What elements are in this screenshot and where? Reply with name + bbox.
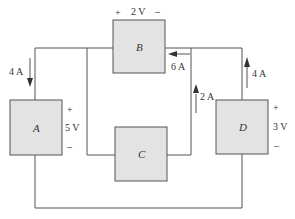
current-arrow-c	[193, 84, 199, 113]
arrow-down-icon	[27, 78, 33, 87]
wire-top-left	[35, 48, 113, 100]
element-d-voltage: 3 V	[273, 121, 288, 132]
wire-inner-left	[87, 48, 115, 155]
element-b-voltage: 2 V	[131, 6, 146, 17]
element-b-plus: +	[115, 7, 121, 18]
element-a-minus: –	[66, 141, 73, 152]
element-a-voltage: 5 V	[65, 122, 80, 133]
current-a-label: 4 A	[9, 66, 24, 77]
element-a-plus: +	[67, 104, 73, 115]
circuit-diagram: A B C D + 5 V – + 2 V – + 3 V – 4 A 6 A …	[0, 0, 295, 219]
current-d-label: 4 A	[252, 68, 267, 79]
current-c-label: 2 A	[200, 91, 215, 102]
current-b-label: 6 A	[171, 61, 186, 72]
element-a-label: A	[32, 122, 40, 134]
arrow-left-icon	[168, 51, 177, 57]
element-b-minus: –	[154, 6, 161, 17]
current-arrow-b	[168, 51, 190, 57]
arrow-up-icon	[193, 84, 199, 93]
element-d-label: D	[238, 121, 247, 133]
arrow-up-icon	[244, 57, 250, 67]
current-arrow-a	[27, 58, 33, 87]
element-b-label: B	[136, 41, 143, 53]
element-c-label: C	[138, 148, 146, 160]
current-arrow-d	[244, 57, 250, 88]
element-d-minus: –	[273, 140, 280, 151]
element-d-plus: +	[273, 102, 279, 113]
